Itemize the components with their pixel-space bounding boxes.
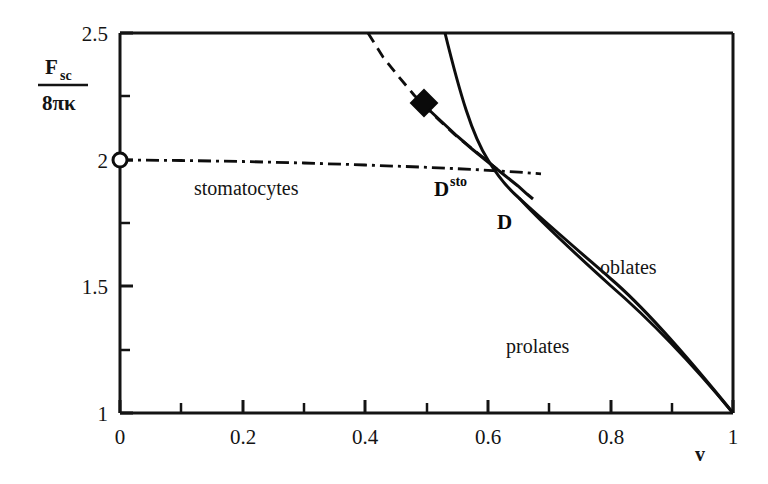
x-tick-label-1: 1 — [728, 425, 739, 449]
data-curves — [120, 33, 733, 413]
x-tick-labels: 0 0.2 0.4 0.6 0.8 1 — [115, 425, 739, 449]
origin-open-circle-marker — [113, 153, 127, 167]
curve-label-stomatocytes: stomatocytes — [194, 177, 299, 200]
curve-oblates — [445, 33, 733, 413]
point-annotations: D sto D — [434, 174, 512, 234]
y-axis-title-denominator: 8πκ — [42, 91, 76, 115]
y-tick-label-1: 1 — [98, 402, 109, 426]
x-tick-label-0: 0 — [115, 425, 126, 449]
x-tick-label-0p8: 0.8 — [598, 425, 624, 449]
curve-labels: stomatocytes oblates prolates — [194, 177, 657, 358]
y-tick-label-2p5: 2.5 — [82, 22, 108, 46]
x-axis-title: v — [695, 443, 705, 465]
curve-stomatocytes-limit — [120, 160, 541, 174]
x-tick-label-0p6: 0.6 — [475, 425, 501, 449]
point-label-d-sto: D — [434, 177, 449, 201]
x-tick-label-0p4: 0.4 — [352, 425, 379, 449]
y-axis-title-numerator-subscript: sc — [60, 68, 72, 83]
curve-label-prolates: prolates — [506, 335, 570, 358]
x-axis-ticks — [120, 400, 733, 413]
markers — [113, 90, 437, 167]
curve-label-oblates: oblates — [600, 256, 657, 278]
y-tick-label-1p5: 1.5 — [82, 275, 108, 299]
y-tick-label-2: 2 — [98, 149, 109, 173]
chart-figure: 1 1.5 2 2.5 0 0.2 0.4 0.6 0.8 1 F sc 8πκ… — [0, 0, 768, 484]
x-tick-label-0p2: 0.2 — [230, 425, 256, 449]
y-tick-labels: 1 1.5 2 2.5 — [82, 22, 108, 426]
curve-prolates — [519, 198, 733, 413]
chart-svg: 1 1.5 2 2.5 0 0.2 0.4 0.6 0.8 1 F sc 8πκ… — [0, 0, 768, 484]
y-axis-title-numerator: F — [45, 55, 58, 79]
plot-frame — [120, 33, 733, 413]
y-axis-ticks — [120, 33, 133, 413]
point-label-d-sto-superscript: sto — [450, 174, 467, 189]
y-axis-title: F sc 8πκ — [38, 55, 88, 115]
point-label-d: D — [497, 210, 512, 234]
